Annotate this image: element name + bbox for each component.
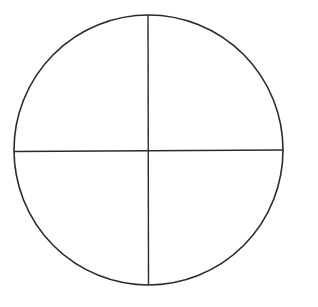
diagram-canvas bbox=[0, 0, 318, 307]
horizontal-divider-line bbox=[14, 150, 283, 152]
quadrant-circle-diagram bbox=[0, 0, 318, 307]
vertical-divider-line bbox=[148, 15, 149, 285]
